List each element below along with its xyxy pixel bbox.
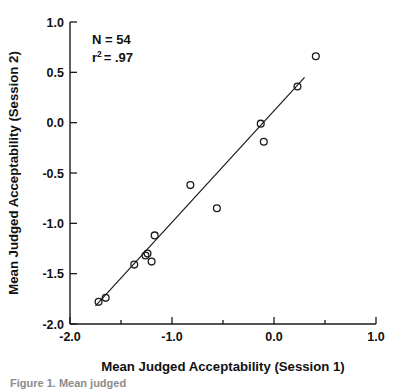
y-tick-label: 0.0 — [47, 116, 64, 130]
y-axis-ticks: -2.0-1.5-1.0-0.50.00.51.0 — [42, 16, 77, 332]
plot-canvas: -2.0-1.5-1.0-0.50.00.51.0 -2.0-1.00.01.0… — [0, 0, 396, 389]
y-tick-label: 1.0 — [47, 16, 64, 30]
figure-caption: Figure 1. Mean judged — [10, 377, 126, 389]
data-point-marker — [312, 53, 319, 60]
data-point-marker — [131, 261, 138, 268]
scatter-plot-figure: -2.0-1.5-1.0-0.50.00.51.0 -2.0-1.00.01.0… — [0, 0, 396, 389]
x-tick-label: 1.0 — [367, 330, 384, 344]
r-squared-annotation: r2= .97 — [92, 49, 133, 65]
x-tick-label: -2.0 — [59, 330, 81, 344]
regression-line — [96, 77, 305, 306]
y-tick-label: 0.5 — [47, 66, 64, 80]
x-tick-label: -1.0 — [161, 330, 183, 344]
n-annotation: N = 54 — [92, 32, 131, 47]
x-axis-title: Mean Judged Acceptability (Session 1) — [101, 359, 345, 374]
y-tick-label: -1.0 — [42, 217, 64, 231]
r-value: = .97 — [104, 50, 133, 65]
data-point-marker — [187, 182, 194, 189]
data-points — [95, 53, 319, 305]
data-point-marker — [260, 138, 267, 145]
y-axis-title: Mean Judged Acceptability (Session 2) — [6, 51, 21, 295]
r-exponent: 2 — [97, 49, 102, 59]
y-tick-label: -0.5 — [42, 167, 64, 181]
y-tick-label: -1.5 — [42, 267, 64, 281]
x-tick-label: 0.0 — [265, 330, 282, 344]
data-point-marker — [213, 205, 220, 212]
data-point-marker — [294, 83, 301, 90]
data-point-marker — [151, 232, 158, 239]
x-axis-ticks: -2.0-1.00.01.0 — [59, 317, 385, 344]
data-point-marker — [148, 258, 155, 265]
